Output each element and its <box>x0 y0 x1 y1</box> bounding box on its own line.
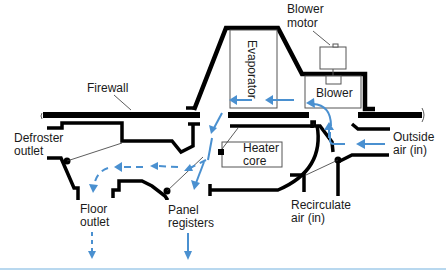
recirculate-air-label-1: Recirculate <box>291 198 351 212</box>
floor-outlet-label-1: Floor <box>80 202 107 216</box>
heater-core-label-1: Heater <box>243 141 279 155</box>
blower-motor-label-2: motor <box>287 16 318 30</box>
firewall-label: Firewall <box>87 81 128 95</box>
defroster-outlet-label-2: outlet <box>14 144 44 158</box>
blower-label: Blower <box>316 86 353 100</box>
outside-air: Outside air (in) <box>393 130 435 157</box>
defroster-outlet-label-1: Defroster <box>14 131 63 145</box>
firewall <box>41 108 200 119</box>
outside-air-label-2: air (in) <box>393 143 427 157</box>
hvac-diagram: Evaporator Blower motor Blower Defroster… <box>0 0 446 273</box>
heater-core-label-2: core <box>243 154 267 168</box>
floor-outlet-label-2: outlet <box>80 215 110 229</box>
bottom-divider <box>0 268 446 270</box>
panel-registers-label-2: registers <box>168 216 214 230</box>
recirculate-air-label-2: air (in) <box>291 211 325 225</box>
blower-motor-label-1: Blower <box>287 2 324 16</box>
outside-air-label-1: Outside <box>393 130 435 144</box>
evaporator-label: Evaporator <box>245 40 259 99</box>
defroster-duct: Defroster outlet <box>14 123 200 200</box>
heater-core-housing: Heater core <box>210 122 333 196</box>
evaporator: Evaporator <box>230 30 277 108</box>
panel-registers-label-1: Panel <box>168 203 199 217</box>
airflow-arrows <box>88 95 385 260</box>
firewall-label-group: Firewall <box>87 81 131 110</box>
